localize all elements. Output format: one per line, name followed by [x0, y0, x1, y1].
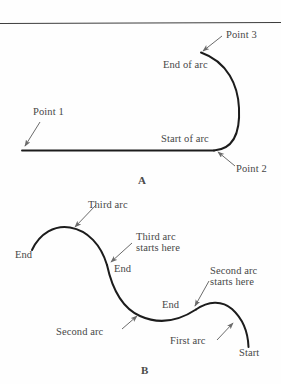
figure-drawing: [0, 0, 281, 384]
label-third-arc-starts-here-line1: Third arc: [136, 231, 176, 243]
arrow-first-arc: [217, 323, 233, 340]
top-rule: [0, 23, 281, 24]
figure-page: Point 3 End of arc Point 1 Start of arc …: [0, 0, 281, 384]
panel-a-letter: A: [138, 174, 146, 186]
label-end-of-arc: End of arc: [163, 59, 208, 71]
label-end-right: End: [162, 299, 179, 311]
label-third-arc-starts-here-line2: starts here: [136, 242, 180, 254]
label-end-left: End: [15, 249, 32, 261]
label-point-1: Point 1: [33, 106, 64, 118]
label-third-arc: Third arc: [88, 199, 128, 211]
label-end-middle: End: [114, 263, 131, 275]
arrow-point2: [218, 152, 235, 166]
arrow-third-arc-starts-here: [111, 243, 132, 262]
label-point-2: Point 2: [236, 163, 267, 175]
label-start-of-arc: Start of arc: [161, 133, 209, 145]
label-second-arc-starts-here-line2: starts here: [210, 276, 254, 288]
label-first-arc: First arc: [170, 335, 206, 347]
arrow-point1: [25, 122, 40, 146]
label-second-arc: Second arc: [56, 326, 103, 338]
arrow-second-arc: [122, 316, 137, 329]
label-second-arc-starts-here-line1: Second arc: [210, 265, 257, 277]
label-point-3: Point 3: [226, 29, 257, 41]
label-start: Start: [239, 347, 259, 359]
arrow-second-arc-starts-here: [195, 281, 209, 306]
arrow-point3: [203, 36, 222, 51]
panel-b-letter: B: [141, 364, 148, 376]
